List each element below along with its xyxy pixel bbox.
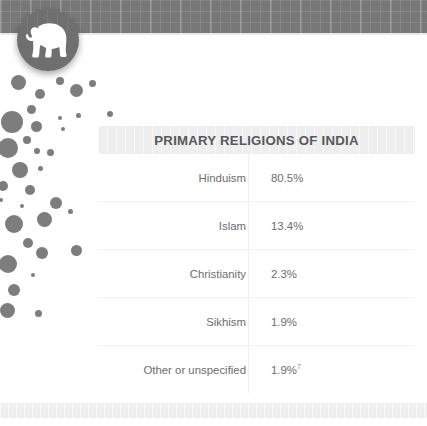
decorative-dot [50, 197, 62, 209]
religion-percentage: 80.5% [258, 171, 415, 184]
percentage-text: 2.3% [271, 268, 297, 280]
table-body: Hinduism 80.5% Islam 13.4% Christianity … [98, 154, 415, 393]
decorative-dot [23, 238, 33, 248]
decorative-dot [58, 116, 62, 120]
decorative-dot [38, 166, 43, 171]
percentage-text: 80.5% [271, 172, 303, 184]
table-row: Other or unspecified 1.9%7 [98, 346, 415, 393]
religion-percentage: 13.4% [258, 219, 415, 232]
religion-label: Other or unspecified [98, 364, 258, 376]
decorative-dot [71, 245, 82, 256]
decorative-dot [35, 89, 45, 99]
religion-percentage: 1.9%7 [258, 363, 415, 376]
percentage-text: 1.9% [271, 364, 297, 376]
decorative-dot [5, 215, 23, 233]
decorative-dot [27, 105, 36, 114]
decorative-dot [35, 310, 42, 317]
religion-label: Christianity [98, 268, 258, 280]
decorative-dot [37, 212, 52, 227]
elephant-icon [25, 22, 71, 60]
decorative-dot [0, 198, 3, 202]
decorative-dot [107, 111, 113, 117]
bottom-band [0, 403, 427, 418]
religion-label: Sikhism [98, 316, 258, 328]
decorative-dot [0, 138, 18, 158]
decorative-dot [31, 273, 35, 277]
decorative-dot [8, 284, 20, 296]
table-row: Hinduism 80.5% [98, 154, 415, 202]
table-row: Sikhism 1.9% [98, 298, 415, 346]
decorative-dot [70, 84, 83, 97]
religion-label: Islam [98, 220, 258, 232]
table-title: PRIMARY RELIGIONS OF INDIA [154, 133, 358, 148]
decorative-dot [12, 162, 28, 178]
decorative-dot [68, 209, 73, 214]
decorative-dot [56, 77, 64, 85]
table-row: Christianity 2.3% [98, 250, 415, 298]
table-row: Islam 13.4% [98, 202, 415, 250]
primary-religions-table: PRIMARY RELIGIONS OF INDIA Hinduism 80.5… [98, 126, 415, 393]
decorative-dot [25, 185, 35, 195]
religion-label: Hinduism [98, 172, 258, 184]
decorative-dot [76, 113, 81, 118]
percentage-text: 1.9% [271, 316, 297, 328]
decorative-dot [89, 80, 96, 87]
decorative-dot [20, 204, 24, 208]
decorative-dot [1, 111, 23, 133]
decorative-dot [0, 181, 8, 191]
decorative-dot [61, 127, 65, 131]
decorative-dot [47, 149, 54, 156]
decorative-dot [34, 148, 40, 154]
decorative-dot [31, 121, 42, 132]
decorative-dot [0, 303, 15, 318]
elephant-logo-badge [17, 9, 79, 71]
decorative-dot [36, 247, 48, 259]
religion-percentage: 2.3% [258, 267, 415, 280]
percentage-text: 13.4% [271, 220, 303, 232]
table-title-bar: PRIMARY RELIGIONS OF INDIA [98, 126, 415, 154]
decorative-dot [11, 75, 26, 90]
decorative-dot [23, 136, 31, 144]
religion-percentage: 1.9% [258, 315, 415, 328]
decorative-dot [0, 255, 17, 273]
footnote-marker: 7 [297, 363, 301, 370]
